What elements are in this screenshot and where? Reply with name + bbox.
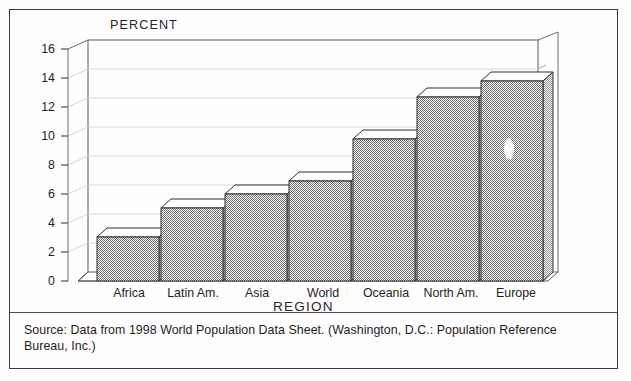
y-axis-title: PERCENT bbox=[110, 18, 178, 32]
bar-asia[interactable] bbox=[225, 185, 297, 281]
y-tick-label-8: 8 bbox=[21, 158, 55, 172]
bar-oceania[interactable] bbox=[353, 130, 425, 281]
y-tick-label-2: 2 bbox=[21, 245, 55, 259]
y-tick-label-16: 16 bbox=[21, 42, 55, 56]
chart-plot-area: PERCENT 0 2 4 6 8 10 12 14 16 Africa Lat… bbox=[9, 9, 618, 312]
y-tick-label-12: 12 bbox=[21, 100, 55, 114]
bar-chart-svg bbox=[9, 9, 618, 312]
section-divider bbox=[10, 312, 618, 313]
bar-africa[interactable] bbox=[97, 228, 169, 281]
x-tick-label-latin-am: Latin Am. bbox=[155, 286, 231, 300]
x-tick-label-europe: Europe bbox=[479, 286, 553, 300]
bar-world[interactable] bbox=[289, 172, 361, 281]
source-note: Source: Data from 1998 World Population … bbox=[24, 323, 604, 354]
bar-north-am[interactable] bbox=[417, 88, 489, 281]
x-tick-label-asia: Asia bbox=[221, 286, 293, 300]
y-tick-label-14: 14 bbox=[21, 71, 55, 85]
bar-latin-am[interactable] bbox=[161, 199, 233, 281]
y-tick-label-0: 0 bbox=[21, 274, 55, 288]
y-tick-label-10: 10 bbox=[21, 129, 55, 143]
y-tick-label-4: 4 bbox=[21, 216, 55, 230]
chart-depth-connectors bbox=[68, 69, 88, 252]
bar-europe[interactable] bbox=[481, 72, 553, 281]
y-tick-label-6: 6 bbox=[21, 187, 55, 201]
chart-y-ticks bbox=[61, 49, 68, 281]
figure-container: PERCENT 0 2 4 6 8 10 12 14 16 Africa Lat… bbox=[0, 0, 631, 381]
